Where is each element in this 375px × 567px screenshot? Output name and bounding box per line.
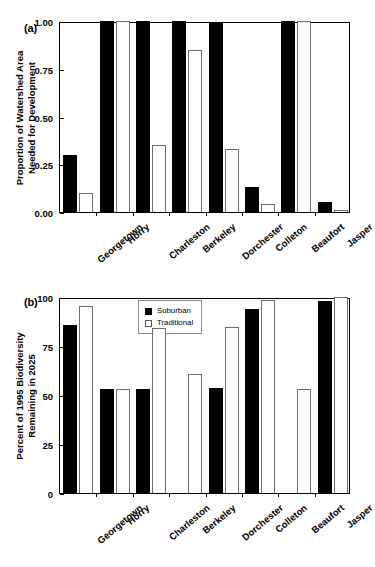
y-tick-label: 0.00: [7, 208, 53, 219]
y-tick-mark: [60, 118, 64, 119]
x-tick-mark: [133, 493, 134, 497]
bar-suburban-dorchester: [209, 23, 223, 212]
x-axis-label-jasper: Jasper: [344, 221, 375, 249]
y-tick-mark: [60, 298, 64, 299]
panel-a: (a) Proportion of Watershed Area Needed …: [0, 12, 359, 280]
panel-b-frame-right: [349, 298, 350, 493]
cut-off-header-text: [38, 0, 328, 4]
bar-suburban-charleston: [136, 389, 150, 493]
x-axis-label-beaufort: Beaufort: [310, 221, 347, 255]
bar-suburban-colleton: [245, 309, 259, 493]
bar-traditional-dorchester: [225, 149, 239, 212]
x-tick-mark: [169, 493, 170, 497]
bar-suburban-colleton: [245, 187, 259, 212]
bar-suburban-georgetown: [63, 155, 77, 212]
bar-traditional-jasper: [334, 297, 348, 493]
x-tick-mark: [133, 212, 134, 216]
bar-suburban-berkeley: [172, 21, 186, 212]
y-tick-label: 25: [7, 440, 53, 451]
legend-label-traditional: Traditional: [157, 317, 193, 329]
bar-suburban-beaufort: [281, 21, 295, 212]
bar-suburban-dorchester: [209, 388, 223, 493]
x-tick-mark: [206, 212, 207, 216]
bar-suburban-charleston: [136, 21, 150, 212]
y-tick-label: 0.75: [7, 64, 53, 75]
y-tick-mark: [60, 70, 64, 71]
bar-suburban-georgetown: [63, 325, 77, 493]
legend-item-traditional: Traditional: [145, 317, 193, 329]
y-tick-label: 50: [7, 391, 53, 402]
x-tick-mark: [242, 493, 243, 497]
x-axis-label-jasper: Jasper: [344, 502, 375, 530]
x-tick-mark: [206, 493, 207, 497]
x-tick-mark: [315, 493, 316, 497]
legend-label-suburban: Suburban: [157, 305, 191, 317]
y-tick-label: 75: [7, 342, 53, 353]
legend-item-suburban: Suburban: [145, 305, 193, 317]
panel-b: (b) Percent of 1995 Biodiversity Remaini…: [0, 288, 359, 567]
y-tick-mark: [60, 494, 64, 495]
bar-traditional-dorchester: [225, 327, 239, 493]
bar-traditional-jasper: [334, 210, 348, 212]
x-tick-mark: [169, 212, 170, 216]
y-tick-label: 0.50: [7, 112, 53, 123]
x-tick-mark: [278, 493, 279, 497]
y-tick-label: 100: [7, 293, 53, 304]
x-tick-mark: [96, 493, 97, 497]
bar-traditional-beaufort: [297, 21, 311, 212]
bar-traditional-charleston: [152, 328, 166, 493]
bar-traditional-colleton: [261, 204, 275, 212]
legend: Suburban Traditional: [138, 300, 202, 334]
panel-b-frame-top: [60, 298, 350, 299]
filled-square-icon: [145, 308, 152, 315]
y-tick-mark: [60, 213, 64, 214]
bar-traditional-georgetown: [79, 306, 93, 493]
bar-traditional-berkeley: [188, 50, 202, 212]
bar-traditional-beaufort: [297, 389, 311, 493]
panel-a-plot-area: 0.000.250.500.751.00GeorgetownHorryCharl…: [59, 22, 350, 213]
y-tick-label: 0: [7, 489, 53, 500]
bar-traditional-horry: [116, 21, 130, 212]
x-tick-mark: [278, 212, 279, 216]
y-tick-label: 1.00: [7, 17, 53, 28]
y-tick-label: 0.25: [7, 160, 53, 171]
bar-traditional-georgetown: [79, 193, 93, 212]
bar-traditional-charleston: [152, 145, 166, 212]
x-tick-mark: [315, 212, 316, 216]
bar-traditional-horry: [116, 389, 130, 493]
bar-suburban-jasper: [318, 301, 332, 493]
panel-b-plot-area: Suburban Traditional 0255075100Georgetow…: [59, 298, 350, 494]
y-tick-mark: [60, 22, 64, 23]
open-square-icon: [145, 320, 152, 327]
panel-a-frame-right: [349, 22, 350, 212]
bar-traditional-berkeley: [188, 374, 202, 493]
x-tick-mark: [242, 212, 243, 216]
bar-suburban-jasper: [318, 202, 332, 212]
bar-suburban-horry: [100, 21, 114, 212]
bar-traditional-colleton: [261, 300, 275, 493]
x-tick-mark: [96, 212, 97, 216]
x-axis-label-beaufort: Beaufort: [310, 502, 347, 536]
bar-suburban-horry: [100, 389, 114, 493]
